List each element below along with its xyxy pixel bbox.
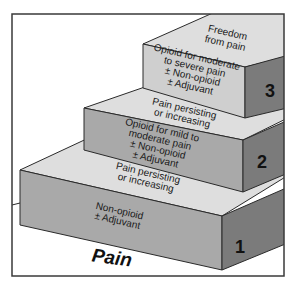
pain-base-label: Pain <box>91 244 134 270</box>
step-1-number: 1 <box>235 237 245 257</box>
analgesic-ladder-diagram: Freedom from pain Opioid for moderate to… <box>0 0 292 290</box>
step-2-number: 2 <box>257 152 267 172</box>
ground-line <box>12 203 20 205</box>
step-3-number: 3 <box>265 81 275 101</box>
